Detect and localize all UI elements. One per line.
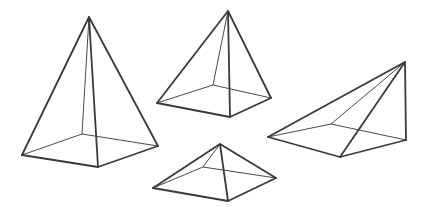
- pyramids-svg-canvas: [0, 0, 421, 207]
- pyramids-figure: [0, 0, 421, 207]
